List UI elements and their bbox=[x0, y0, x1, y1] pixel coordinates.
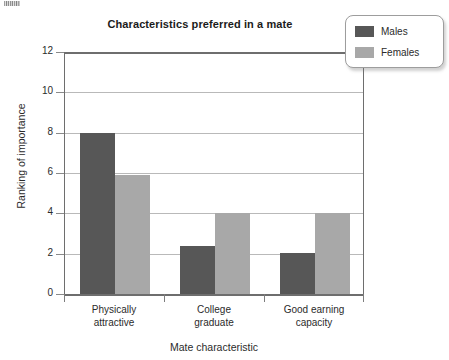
y-tick-mark bbox=[56, 133, 64, 134]
y-tick-mark bbox=[56, 92, 64, 93]
y-tick-mark bbox=[56, 294, 64, 295]
y-tick-label: 4 bbox=[13, 206, 53, 217]
x-category-label-line: Good earning bbox=[264, 304, 364, 317]
legend-entry-females[interactable]: Females bbox=[355, 46, 419, 58]
y-tick-mark bbox=[56, 213, 64, 214]
x-axis-separator bbox=[64, 294, 65, 302]
y-tick-label: 6 bbox=[13, 166, 53, 177]
bar-males-1[interactable] bbox=[180, 246, 215, 294]
x-axis-category-labels: PhysicallyattractiveCollegegraduateGood … bbox=[64, 304, 364, 338]
plot-area bbox=[64, 52, 364, 294]
bar-group bbox=[280, 52, 350, 294]
bar-females-1[interactable] bbox=[215, 213, 250, 294]
bar-group bbox=[80, 52, 150, 294]
x-category-label-0: Physicallyattractive bbox=[64, 304, 164, 329]
bars-layer bbox=[65, 52, 363, 294]
x-axis-title: Mate characteristic bbox=[64, 341, 364, 353]
x-category-label-1: Collegegraduate bbox=[164, 304, 264, 329]
y-tick-mark bbox=[56, 52, 64, 53]
y-tick-label: 12 bbox=[13, 45, 53, 56]
y-axis-ticks: 024681012 bbox=[0, 52, 64, 295]
x-category-label-2: Good earningcapacity bbox=[264, 304, 364, 329]
chart-title: Characteristics preferred in a mate bbox=[0, 18, 400, 30]
legend-entry-males[interactable]: Males bbox=[355, 25, 408, 37]
x-axis-separator bbox=[264, 294, 265, 302]
y-tick-label: 10 bbox=[13, 85, 53, 96]
x-category-label-line: capacity bbox=[264, 317, 364, 330]
legend-label: Females bbox=[381, 47, 419, 58]
x-axis-separator bbox=[164, 294, 165, 302]
y-tick-label: 8 bbox=[13, 126, 53, 137]
x-category-label-line: Physically bbox=[64, 304, 164, 317]
x-category-label-line: attractive bbox=[64, 317, 164, 330]
legend-swatch-males bbox=[355, 26, 374, 37]
x-axis-separator bbox=[363, 294, 364, 302]
y-tick-mark bbox=[56, 173, 64, 174]
bar-group bbox=[180, 52, 250, 294]
bar-males-2[interactable] bbox=[280, 253, 315, 294]
bar-males-0[interactable] bbox=[80, 133, 115, 294]
y-tick-label: 2 bbox=[13, 247, 53, 258]
legend-swatch-females bbox=[355, 47, 374, 58]
bar-females-0[interactable] bbox=[115, 175, 150, 294]
legend-label: Males bbox=[381, 26, 408, 37]
x-category-label-line: graduate bbox=[164, 317, 264, 330]
y-tick-mark bbox=[56, 254, 64, 255]
bar-females-2[interactable] bbox=[315, 213, 350, 294]
scan-artifact bbox=[4, 1, 20, 6]
x-axis-ticks bbox=[64, 294, 364, 304]
x-category-label-line: College bbox=[164, 304, 264, 317]
legend[interactable]: MalesFemales bbox=[345, 15, 444, 68]
y-tick-label: 0 bbox=[13, 287, 53, 298]
